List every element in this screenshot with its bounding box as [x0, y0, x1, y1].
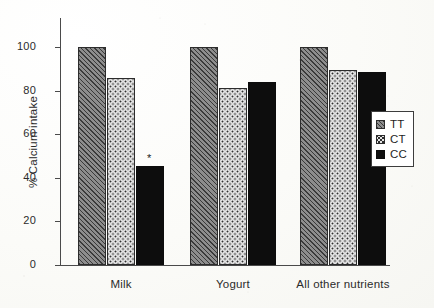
y-tick-0	[55, 265, 60, 266]
x-category-label-milk: Milk	[110, 278, 131, 290]
legend-item-tt[interactable]: TT	[376, 117, 407, 131]
y-tick-label-60: 60	[0, 127, 36, 139]
significance-asterisk-milk-cc: *	[147, 153, 151, 164]
legend-label-cc: CC	[390, 148, 407, 160]
legend-swatch-ct-icon	[376, 135, 385, 144]
chart-legend: TT CT CC	[371, 111, 414, 167]
bar-group-milk: *	[78, 43, 173, 265]
legend-label-tt: TT	[390, 118, 405, 130]
y-tick-40	[55, 178, 60, 179]
y-tick-100	[55, 47, 60, 48]
bar-yogurt-ct[interactable]	[219, 88, 247, 265]
y-tick-80	[55, 91, 60, 92]
y-axis-title: % Calcium intake	[27, 47, 39, 237]
y-tick-label-100: 100	[0, 40, 36, 52]
x-category-label-all-other-nutrients: All other nutrients	[296, 278, 389, 290]
x-category-label-yogurt: Yogurt	[216, 278, 250, 290]
bar-milk-cc[interactable]	[136, 166, 164, 265]
legend-swatch-tt-icon	[376, 120, 385, 129]
bar-milk-ct[interactable]	[107, 78, 135, 266]
bar-group-yogurt	[190, 43, 285, 265]
bar-all-other-nutrients-cc[interactable]	[358, 72, 386, 265]
y-tick-label-80: 80	[0, 84, 36, 96]
y-tick-label-0: 0	[0, 258, 36, 270]
legend-item-cc[interactable]: CC	[376, 147, 407, 161]
y-tick-20	[55, 221, 60, 222]
legend-label-ct: CT	[390, 133, 406, 145]
y-tick-60	[55, 134, 60, 135]
y-tick-label-20: 20	[0, 214, 36, 226]
bar-yogurt-tt[interactable]	[190, 47, 218, 265]
legend-swatch-cc-icon	[376, 150, 385, 159]
bar-all-other-nutrients-tt[interactable]	[300, 47, 328, 265]
bar-all-other-nutrients-ct[interactable]	[329, 70, 357, 265]
bar-milk-tt[interactable]	[78, 47, 106, 265]
y-tick-label-40: 40	[0, 171, 36, 183]
y-axis-line	[60, 18, 61, 266]
bar-yogurt-cc[interactable]	[248, 82, 276, 265]
legend-item-ct[interactable]: CT	[376, 132, 407, 146]
chart-plot-area: % Calcium intake 0 20 40 60 80 100 * Mil…	[0, 0, 434, 308]
x-axis-line	[60, 265, 390, 266]
